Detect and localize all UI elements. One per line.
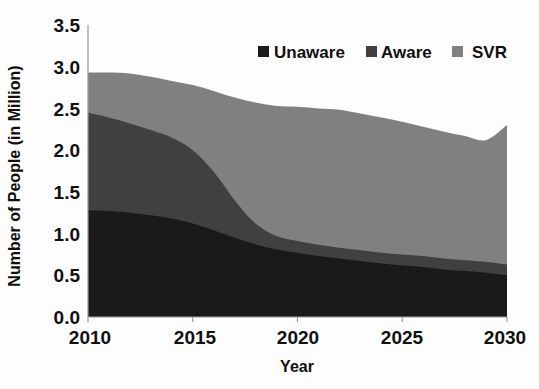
y-axis-title: Number of People (in Million) [6,65,23,286]
y-tick-label: 3.5 [54,15,81,36]
x-tick-label: 2010 [69,327,111,348]
stacked-area-chart: 3.5 3.0 2.5 2.0 1.5 1.0 0.5 0.0 2010 201… [0,0,539,389]
y-tick-label: 0.0 [54,307,80,328]
legend-swatch-aware [366,46,377,57]
x-tick-label: 2030 [484,327,526,348]
x-tick-label: 2020 [277,327,319,348]
legend-swatch-unaware [258,46,269,57]
chart-container: 3.5 3.0 2.5 2.0 1.5 1.0 0.5 0.0 2010 201… [0,0,539,389]
x-tick-labels: 2010 2015 2020 2025 2030 [69,327,526,348]
legend-label-unaware: Unaware [274,43,345,62]
legend-label-svr: SVR [472,43,507,62]
y-tick-label: 1.5 [54,182,81,203]
y-tick-label: 0.5 [54,265,81,286]
legend-label-aware: Aware [381,43,432,62]
x-axis-title: Year [280,358,314,375]
x-tick-label: 2025 [381,327,424,348]
legend-swatch-svr [452,46,463,57]
y-tick-label: 1.0 [54,224,80,245]
y-tick-labels: 3.5 3.0 2.5 2.0 1.5 1.0 0.5 0.0 [54,15,81,328]
x-tick-label: 2015 [174,327,217,348]
x-tick-marks [88,317,507,322]
y-tick-label: 2.0 [54,140,80,161]
y-tick-label: 2.5 [54,99,81,120]
y-tick-label: 3.0 [54,57,80,78]
